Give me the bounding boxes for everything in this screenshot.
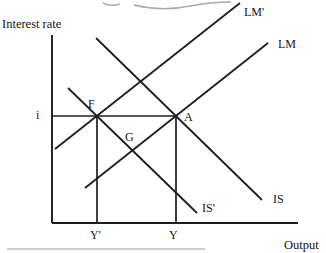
is-prime-curve-label: IS' — [202, 201, 215, 215]
cropped-text-top-artifact — [103, 2, 231, 9]
interest-rate-i-label: i — [36, 108, 40, 122]
point-f-label: F — [88, 97, 95, 111]
output-y-prime-label: Y' — [90, 228, 101, 242]
islm-diagram-canvas: Interest rateOutputLM'LMISIS'iFAGY'Y — [0, 0, 326, 253]
lm-curve-label: LM — [278, 37, 296, 51]
is-curve — [96, 38, 262, 200]
output-y-label: Y — [169, 228, 178, 242]
islm-figure: Interest rateOutputLM'LMISIS'iFAGY'Y — [0, 0, 326, 253]
x-axis-label: Output — [284, 238, 319, 252]
y-axis-label: Interest rate — [2, 17, 62, 31]
is-curve-label: IS — [273, 192, 284, 206]
point-g-label: G — [125, 130, 134, 144]
point-a-label: A — [184, 110, 193, 124]
lm-prime-curve — [55, 3, 240, 149]
lm-prime-curve-label: LM' — [244, 5, 264, 19]
